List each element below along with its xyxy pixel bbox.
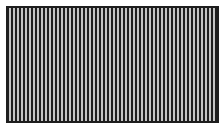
light-stripe [141,8,143,121]
light-stripe [185,8,187,121]
light-stripe [205,8,207,121]
light-stripe [137,8,139,121]
light-stripe [149,8,151,121]
light-stripe [85,8,87,121]
light-stripe [125,8,127,121]
light-stripe [9,8,11,121]
light-stripe [65,8,67,121]
light-stripe [161,8,163,121]
light-stripe [81,8,83,121]
light-stripe [13,8,15,121]
light-stripe [165,8,167,121]
light-stripe [145,8,147,121]
light-stripe [133,8,135,121]
light-stripe [129,8,131,121]
light-stripe [153,8,155,121]
light-stripe [89,8,91,121]
light-stripe [173,8,175,121]
light-stripe [113,8,115,121]
light-stripe [157,8,159,121]
light-stripe [193,8,195,121]
light-stripe [209,8,211,121]
light-stripe [53,8,55,121]
light-stripe [201,8,203,121]
light-stripe [33,8,35,121]
light-stripe [37,8,39,121]
light-stripe [197,8,199,121]
light-stripe [169,8,171,121]
light-stripe [93,8,95,121]
light-stripe [101,8,103,121]
light-stripe [25,8,27,121]
light-stripe [177,8,179,121]
light-stripe [77,8,79,121]
light-stripe [69,8,71,121]
light-stripe [97,8,99,121]
light-stripe [21,8,23,121]
light-stripe [49,8,51,121]
striped-pattern-frame [6,6,219,123]
light-stripe [105,8,107,121]
vertical-stripes [8,8,217,121]
light-stripe [61,8,63,121]
light-stripe [17,8,19,121]
light-stripe [73,8,75,121]
light-stripe [29,8,31,121]
light-stripe [57,8,59,121]
light-stripe [117,8,119,121]
light-stripe [121,8,123,121]
light-stripe [45,8,47,121]
light-stripe [213,8,215,121]
light-stripe [109,8,111,121]
light-stripe [181,8,183,121]
light-stripe [41,8,43,121]
light-stripe [189,8,191,121]
